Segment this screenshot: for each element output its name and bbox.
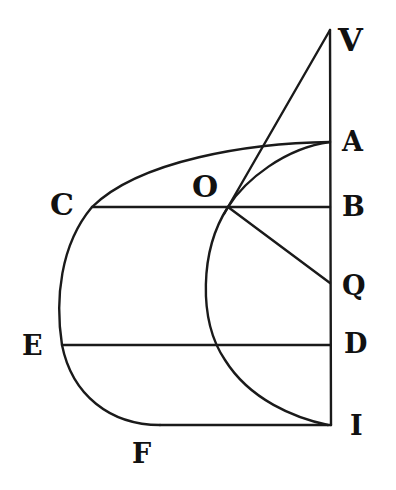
- label-O: O: [192, 172, 218, 202]
- line-VO: [224, 30, 330, 214]
- label-A: A: [342, 128, 363, 155]
- label-E: E: [22, 332, 43, 359]
- label-C: C: [50, 190, 74, 220]
- line-OQ: [228, 207, 330, 283]
- geometric-figure: [0, 0, 396, 490]
- label-D: D: [344, 330, 367, 357]
- inner-arc: [206, 142, 330, 425]
- line-VI: [330, 30, 331, 425]
- label-B: B: [342, 193, 365, 220]
- label-I: I: [350, 412, 363, 439]
- label-Q: Q: [342, 272, 366, 299]
- label-V: V: [338, 24, 363, 56]
- label-F: F: [132, 440, 151, 467]
